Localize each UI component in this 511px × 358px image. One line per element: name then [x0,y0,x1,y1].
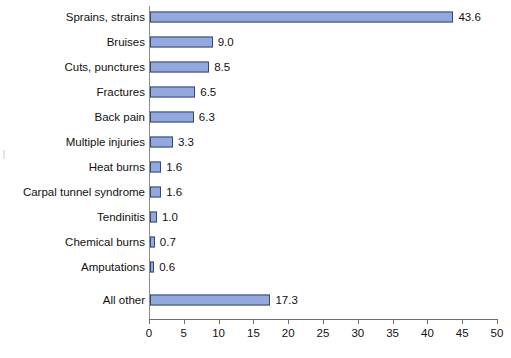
bar-row: Chemical burns0.7 [0,229,511,254]
bar [150,61,209,72]
category-label: Tendinitis [97,210,145,223]
bar-row: Bruises9.0 [0,29,511,54]
bar-value-label: 8.5 [214,60,230,73]
x-tick-mark [219,319,220,324]
category-label: Amputations [81,260,145,273]
category-label: Cuts, punctures [64,60,145,73]
bar [150,211,157,222]
bar [150,186,161,197]
x-tick-mark [288,319,289,324]
bar-value-label: 6.3 [199,110,215,123]
bar-value-label: 1.0 [162,210,178,223]
bar-row: Heat burns1.6 [0,154,511,179]
x-tick-mark [462,319,463,324]
bar-value-label: 0.7 [160,235,176,248]
bar [150,161,161,172]
bar-row: Carpal tunnel syndrome1.6 [0,179,511,204]
category-label: Multiple injuries [66,135,145,148]
x-tick-mark [323,319,324,324]
bar-value-label: 17.3 [275,293,297,306]
x-tick-label: 35 [378,327,408,340]
bar [150,236,155,247]
bar-row: Fractures6.5 [0,79,511,104]
bar [150,11,453,22]
x-tick-label: 50 [482,327,511,340]
bar-row: Multiple injuries3.3 [0,129,511,154]
x-tick-mark [358,319,359,324]
x-tick-label: 45 [447,327,477,340]
x-tick-label: 25 [308,327,338,340]
category-label: Carpal tunnel syndrome [23,185,145,198]
bar [150,136,173,147]
plot-area: Sprains, strains43.6Bruises9.0Cuts, punc… [0,0,511,358]
category-label: Chemical burns [65,235,145,248]
bar-value-label: 6.5 [200,85,216,98]
x-tick-mark [497,319,498,324]
category-label: Sprains, strains [66,10,145,23]
x-tick-mark [184,319,185,324]
category-label: Heat burns [89,160,145,173]
bar [150,86,195,97]
x-tick-mark [427,319,428,324]
bar-row: All other17.3 [0,287,511,312]
category-label: Fractures [96,85,145,98]
x-tick-label: 10 [204,327,234,340]
x-tick-label: 20 [273,327,303,340]
bar-value-label: 1.6 [166,185,182,198]
x-tick-label: 15 [238,327,268,340]
x-tick-label: 5 [169,327,199,340]
category-label: Bruises [107,35,145,48]
bar-row: Back pain6.3 [0,104,511,129]
x-tick-label: 40 [412,327,442,340]
category-label: Back pain [94,110,145,123]
category-label: All other [103,293,145,306]
bar-value-label: 9.0 [218,35,234,48]
x-tick-label: 0 [134,327,164,340]
bar-row: Sprains, strains43.6 [0,4,511,29]
x-tick-mark [253,319,254,324]
bar-chart: Sprains, strains43.6Bruises9.0Cuts, punc… [0,0,511,358]
bar [150,261,154,272]
x-tick-mark [149,319,150,324]
bar [150,294,270,305]
bar-row: Amputations0.6 [0,254,511,279]
x-tick-label: 30 [343,327,373,340]
x-tick-mark [393,319,394,324]
bar-value-label: 43.6 [458,10,480,23]
bar-value-label: 0.6 [159,260,175,273]
bar-value-label: 1.6 [166,160,182,173]
bar [150,111,194,122]
bar-row: Tendinitis1.0 [0,204,511,229]
bar-row: Cuts, punctures8.5 [0,54,511,79]
bar-value-label: 3.3 [178,135,194,148]
bar [150,36,213,47]
